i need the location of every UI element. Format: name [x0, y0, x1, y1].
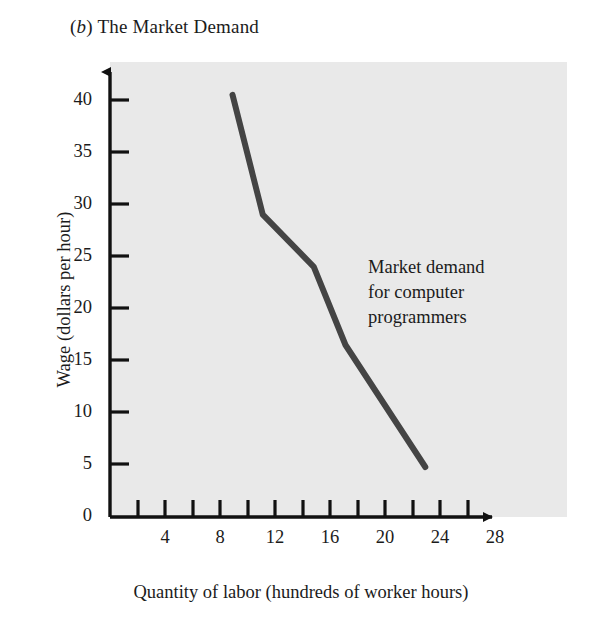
- annotation-line-2: for computer: [368, 280, 485, 305]
- x-tick-label-12: 12: [255, 527, 295, 548]
- x-tick-label-28: 28: [475, 527, 515, 548]
- x-axis-ticks: [138, 500, 468, 517]
- x-tick-label-8: 8: [200, 527, 240, 548]
- y-axis-ticks: [110, 100, 129, 464]
- annotation-line-1: Market demand: [368, 255, 485, 280]
- curve-annotation: Market demand for computer programmers: [368, 255, 485, 330]
- y-axis-title: Wage (dollars per hour): [54, 130, 75, 470]
- y-tick-label-40: 40: [52, 89, 92, 110]
- x-tick-label-20: 20: [365, 527, 405, 548]
- figure-panel: (b) The Market Demand: [0, 0, 602, 638]
- annotation-line-3: programmers: [368, 305, 485, 330]
- x-tick-label-4: 4: [145, 527, 185, 548]
- y-tick-label-0: 0: [52, 505, 92, 526]
- x-tick-label-24: 24: [420, 527, 460, 548]
- x-axis-title: Quantity of labor (hundreds of worker ho…: [0, 582, 602, 603]
- x-tick-label-16: 16: [310, 527, 350, 548]
